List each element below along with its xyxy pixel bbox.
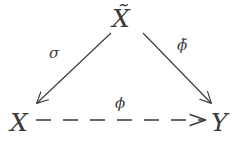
commutative-diagram: X̃ X Y σ ϕ̃ ϕ	[0, 0, 246, 143]
node-x: X	[10, 110, 28, 135]
edge-label-phi-tilde: ϕ̃	[177, 38, 187, 53]
node-y: Y	[211, 110, 228, 135]
edge-label-sigma: σ	[49, 46, 59, 61]
node-x-tilde: X̃	[112, 6, 130, 31]
edge-label-phi: ϕ	[115, 96, 125, 111]
